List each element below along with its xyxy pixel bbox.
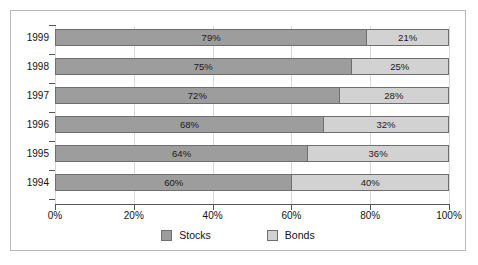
y-axis-tick [49, 199, 55, 200]
bar-segment-stocks: 79% [55, 29, 366, 46]
legend-item-bonds[interactable]: Bonds [267, 229, 315, 241]
y-axis-tick [49, 112, 55, 113]
legend-label-stocks: Stocks [179, 229, 211, 241]
chart-frame: 79%21%75%25%72%28%68%32%64%36%60%40% 199… [10, 10, 466, 251]
y-axis-tick [49, 141, 55, 142]
bar-segment-stocks: 64% [55, 145, 307, 162]
y-axis-label-1994: 1994 [11, 174, 49, 191]
y-axis-label-1998: 1998 [11, 58, 49, 75]
bar-row: 75%25% [55, 58, 449, 75]
bar-segment-stocks: 68% [55, 116, 323, 133]
gridline-100pct [449, 26, 450, 204]
bar-segment-bonds: 36% [307, 145, 449, 162]
y-axis-tick [49, 54, 55, 55]
bar-segment-bonds: 21% [366, 29, 449, 46]
y-axis-tick [49, 83, 55, 84]
y-axis-label-1995: 1995 [11, 145, 49, 162]
bar-row: 68%32% [55, 116, 449, 133]
y-axis-tick [49, 170, 55, 171]
plot-area: 79%21%75%25%72%28%68%32%64%36%60%40% [55, 26, 449, 204]
legend-item-stocks[interactable]: Stocks [161, 229, 211, 241]
y-axis-tick [49, 25, 55, 26]
x-axis-label-0pct: 0% [48, 210, 62, 221]
bar-segment-bonds: 25% [351, 58, 450, 75]
bar-segment-bonds: 40% [291, 174, 449, 191]
bar-row: 60%40% [55, 174, 449, 191]
bar-segment-stocks: 60% [55, 174, 291, 191]
x-axis-label-60pct: 60% [281, 210, 301, 221]
x-axis-label-40pct: 40% [203, 210, 223, 221]
bar-row: 64%36% [55, 145, 449, 162]
chart-legend: StocksBonds [11, 229, 465, 241]
y-axis-label-1997: 1997 [11, 87, 49, 104]
legend-swatch-stocks [161, 230, 172, 241]
x-axis-label-100pct: 100% [436, 210, 462, 221]
bar-segment-stocks: 72% [55, 87, 339, 104]
bar-row: 72%28% [55, 87, 449, 104]
y-axis-label-1996: 1996 [11, 116, 49, 133]
x-axis-label-20pct: 20% [124, 210, 144, 221]
bar-segment-bonds: 32% [323, 116, 449, 133]
legend-swatch-bonds [267, 230, 278, 241]
x-axis-label-80pct: 80% [360, 210, 380, 221]
x-axis-line [55, 204, 450, 205]
legend-label-bonds: Bonds [285, 229, 315, 241]
y-axis-label-1999: 1999 [11, 29, 49, 46]
bar-segment-stocks: 75% [55, 58, 351, 75]
bar-row: 79%21% [55, 29, 449, 46]
bar-segment-bonds: 28% [339, 87, 449, 104]
